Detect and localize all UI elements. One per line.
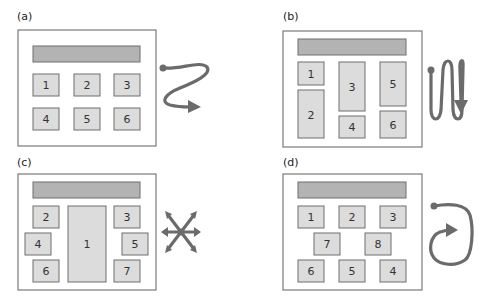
box-2: 2 [74, 74, 100, 96]
panel-b: (b) 1 2 3 4 5 6 [283, 10, 468, 147]
box-label: 2 [349, 211, 356, 224]
z-scan-arrow-icon [160, 64, 208, 113]
box-label: 4 [349, 121, 356, 134]
box-label: 3 [124, 211, 131, 224]
layout-diagram: (a) 1 2 3 4 5 6 [0, 0, 486, 301]
box-label: 1 [308, 68, 315, 81]
box-label: 5 [132, 238, 139, 251]
box-4: 4 [25, 233, 51, 255]
panel-label: (d) [283, 156, 299, 169]
header-bar [33, 46, 140, 62]
box-label: 6 [390, 119, 397, 132]
box-2: 2 [298, 90, 324, 138]
box-label: 4 [43, 113, 50, 126]
panel-c: (c) 1 2 3 4 5 6 7 [17, 156, 201, 290]
panel-label: (a) [17, 10, 32, 23]
box-7: 7 [114, 260, 140, 282]
box-label: 8 [375, 238, 382, 251]
box-label: 6 [124, 113, 131, 126]
box-1: 1 [298, 62, 324, 85]
box-label: 5 [349, 265, 356, 278]
box-label: 3 [349, 81, 356, 94]
box-3: 3 [380, 206, 406, 228]
header-bar [298, 182, 406, 198]
header-bar [33, 182, 140, 198]
box-label: 4 [35, 238, 42, 251]
box-5: 5 [122, 233, 148, 255]
box-6: 6 [114, 108, 140, 130]
box-4: 4 [380, 260, 406, 282]
box-1: 1 [33, 74, 59, 96]
panel-label: (b) [283, 10, 299, 23]
box-label: 5 [390, 78, 397, 91]
box-3: 3 [114, 206, 140, 228]
box-label: 7 [324, 238, 331, 251]
box-label: 1 [308, 211, 315, 224]
box-2: 2 [339, 206, 365, 228]
panel-a: (a) 1 2 3 4 5 6 [17, 10, 208, 146]
box-label: 6 [308, 265, 315, 278]
n-scan-arrow-icon [428, 61, 469, 119]
circular-arrow-icon [431, 203, 473, 265]
radial-arrows-icon [161, 211, 201, 253]
panel-label: (c) [17, 156, 32, 169]
box-6: 6 [298, 260, 324, 282]
box-3: 3 [114, 74, 140, 96]
box-label: 2 [43, 211, 50, 224]
box-1: 1 [68, 206, 106, 282]
box-5: 5 [380, 62, 406, 106]
box-1: 1 [298, 206, 324, 228]
box-label: 5 [84, 113, 91, 126]
box-4: 4 [339, 116, 365, 138]
box-3: 3 [339, 62, 365, 111]
box-label: 7 [124, 265, 131, 278]
box-label: 1 [43, 79, 50, 92]
box-4: 4 [33, 108, 59, 130]
box-label: 3 [390, 211, 397, 224]
box-7: 7 [314, 233, 340, 255]
panel-d: (d) 1 2 3 7 8 6 5 [283, 156, 472, 290]
box-6: 6 [33, 260, 59, 282]
header-bar [298, 39, 406, 55]
box-label: 2 [84, 79, 91, 92]
box-8: 8 [365, 233, 391, 255]
box-label: 2 [308, 109, 315, 122]
box-6: 6 [380, 111, 406, 138]
box-label: 1 [84, 238, 91, 251]
box-2: 2 [33, 206, 59, 228]
box-label: 4 [390, 265, 397, 278]
box-5: 5 [74, 108, 100, 130]
box-5: 5 [339, 260, 365, 282]
box-label: 3 [124, 79, 131, 92]
box-label: 6 [43, 265, 50, 278]
